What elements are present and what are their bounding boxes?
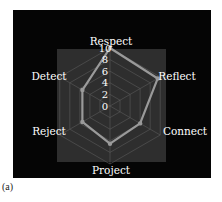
radial-tick-label: 4 xyxy=(102,77,108,88)
panel-label: (a) xyxy=(2,181,13,192)
category-label-reject: Reject xyxy=(32,125,66,137)
category-label-respect: Respect xyxy=(90,35,133,47)
data-point xyxy=(80,120,84,124)
radar-chart: 0246810RespectReflectConnectProjectRejec… xyxy=(13,10,211,178)
category-label-reflect: Reflect xyxy=(158,70,196,82)
data-point xyxy=(80,88,84,92)
radar-chart-figure: 0246810RespectReflectConnectProjectRejec… xyxy=(13,10,211,178)
category-label-detect: Detect xyxy=(31,70,67,82)
category-label-connect: Connect xyxy=(163,125,208,137)
data-point xyxy=(108,142,112,146)
category-label-project: Project xyxy=(92,164,131,176)
radial-tick-label: 0 xyxy=(102,101,108,112)
radial-tick-label: 2 xyxy=(102,89,108,100)
radial-tick-label: 8 xyxy=(102,54,108,65)
radial-tick-label: 6 xyxy=(102,66,108,77)
data-point xyxy=(138,121,142,125)
